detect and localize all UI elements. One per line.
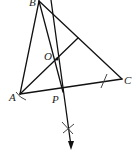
label-B: B — [29, 0, 36, 8]
label-P: P — [51, 93, 59, 105]
geometry-diagram: B A C O P — [0, 0, 132, 151]
segment-AC — [20, 79, 122, 94]
segment-A-to-BC — [20, 38, 78, 94]
arrowhead-icon — [68, 141, 74, 150]
label-A: A — [8, 91, 16, 103]
point-O-dot — [56, 58, 59, 61]
label-C: C — [124, 74, 132, 86]
segment-B-through-O — [39, 1, 63, 92]
segment-BC — [39, 1, 122, 79]
label-O: O — [44, 50, 52, 62]
segment-AB — [20, 1, 39, 94]
